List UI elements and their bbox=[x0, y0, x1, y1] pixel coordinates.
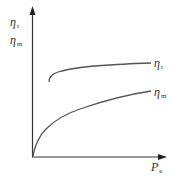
x-label-pe-sub: e bbox=[159, 167, 162, 175]
curve-label-eta-t-base: η bbox=[154, 56, 160, 70]
y-axis-arrow-icon bbox=[30, 6, 36, 15]
x-axis-arrow-icon bbox=[158, 154, 167, 160]
y-axis-label-eta-m: ηm bbox=[10, 34, 22, 48]
curve-label-eta-t-sub: t bbox=[161, 63, 163, 71]
y-axis-label-eta-t: ηt bbox=[10, 16, 19, 30]
chart-canvas bbox=[0, 0, 173, 178]
curve-label-eta-m: ηm bbox=[154, 86, 166, 100]
x-axis-label-pe: Pe bbox=[151, 161, 162, 175]
curve-label-eta-t: ηt bbox=[154, 57, 163, 71]
y-label-eta-m-base: η bbox=[10, 33, 16, 47]
y-label-eta-m-sub: m bbox=[17, 40, 22, 48]
curve-label-eta-m-base: η bbox=[154, 85, 160, 99]
curve-eta-t bbox=[49, 63, 151, 82]
y-label-eta-t-base: η bbox=[10, 15, 16, 29]
curve-eta-m bbox=[33, 91, 151, 156]
x-label-pe-base: P bbox=[151, 160, 158, 174]
y-label-eta-t-sub: t bbox=[17, 22, 19, 30]
curve-label-eta-m-sub: m bbox=[161, 92, 166, 100]
